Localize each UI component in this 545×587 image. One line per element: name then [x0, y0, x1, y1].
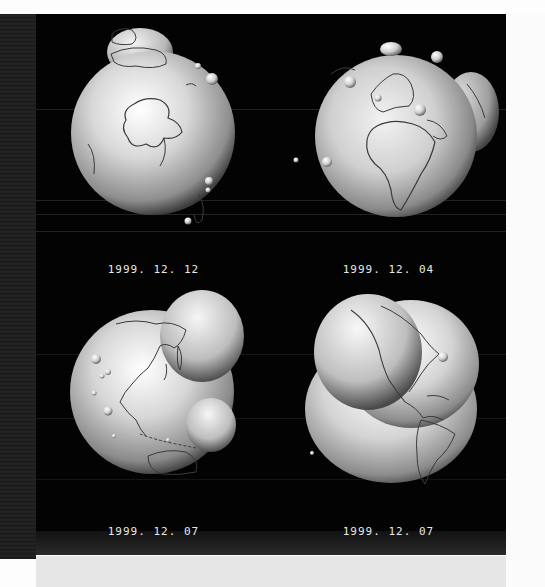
- panel-top-left: [36, 14, 271, 284]
- caption-top-right: 1999. 12. 04: [271, 263, 506, 276]
- globe-africa-europe: [271, 14, 506, 284]
- caption-top-left: 1999. 12. 12: [36, 263, 271, 276]
- panel-bottom-left: [36, 284, 271, 554]
- globe-antarctica: [36, 14, 271, 284]
- page-margin-right: [506, 14, 545, 587]
- globe-asia-australia: [36, 284, 271, 554]
- globe-panel: 1999. 12. 12 1999. 12. 04 1999. 12. 07 1…: [36, 14, 506, 555]
- caption-bottom-left: 1999. 12. 07: [36, 525, 271, 538]
- scan-left-edge: [0, 14, 36, 559]
- figure: 1999. 12. 12 1999. 12. 04 1999. 12. 07 1…: [0, 0, 545, 587]
- globe-americas: [271, 284, 506, 554]
- panel-top-right: [271, 14, 506, 284]
- caption-bottom-right: 1999. 12. 07: [271, 525, 506, 538]
- panel-bottom-right: [271, 284, 506, 554]
- scan-bottom-edge: [36, 556, 506, 587]
